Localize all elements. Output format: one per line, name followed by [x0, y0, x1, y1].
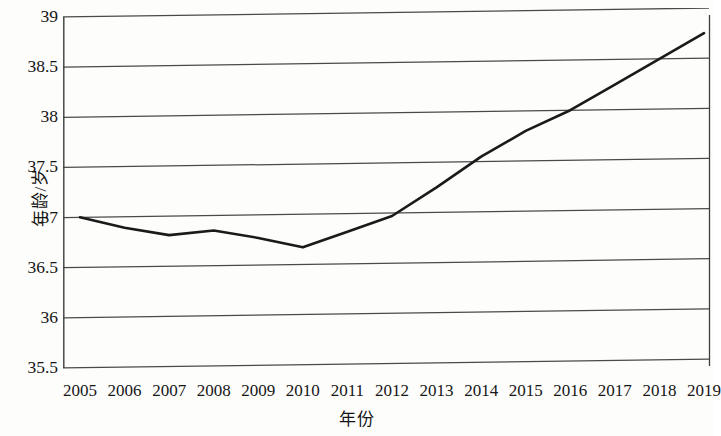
x-tick-label: 2016 [553, 381, 587, 401]
x-tick-label: 2007 [152, 381, 186, 401]
y-axis-tick-labels: 35.53636.53737.53838.539 [0, 0, 58, 436]
y-tick-label: 35.5 [0, 359, 58, 377]
x-tick-label: 2019 [687, 381, 721, 401]
gridline [63, 8, 709, 17]
x-tick-label: 2011 [331, 381, 364, 401]
axis-borders [64, 15, 710, 368]
x-tick-label: 2013 [420, 381, 454, 401]
y-tick-label: 36 [0, 309, 58, 327]
gridline [63, 309, 709, 318]
y-tick-label: 37 [0, 209, 58, 227]
y-tick-label: 39 [0, 8, 58, 26]
x-tick-label: 2008 [197, 381, 231, 401]
x-tick-label: 2012 [375, 381, 409, 401]
gridline [63, 359, 709, 368]
gridline [63, 259, 709, 268]
x-axis-tick-labels: 2005200620072008200920102011201220132014… [63, 381, 711, 407]
x-tick-label: 2010 [286, 381, 320, 401]
x-tick-label: 2017 [598, 381, 632, 401]
x-axis-title: 年份 [0, 405, 714, 430]
gridline [63, 209, 709, 218]
y-tick-label: 38.5 [0, 58, 58, 76]
plot-area [63, 8, 711, 378]
gridline [63, 58, 709, 67]
gridline [63, 158, 709, 167]
x-tick-label: 2015 [509, 381, 543, 401]
y-tick-label: 36.5 [0, 259, 58, 277]
y-tick-label: 37.5 [0, 158, 58, 176]
x-tick-label: 2018 [642, 381, 676, 401]
gridlines [63, 8, 709, 368]
x-tick-label: 2005 [63, 381, 97, 401]
y-tick-label: 38 [0, 108, 58, 126]
plot-svg [63, 8, 711, 378]
x-tick-label: 2014 [464, 381, 498, 401]
x-tick-label: 2006 [108, 381, 142, 401]
gridline [63, 108, 709, 117]
x-tick-label: 2009 [241, 381, 275, 401]
